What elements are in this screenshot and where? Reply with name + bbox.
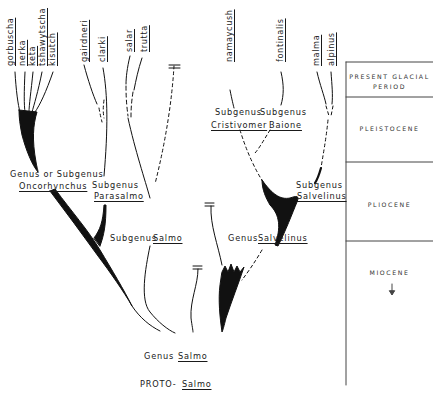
cristivomer-rank: Subgenus	[215, 108, 262, 116]
salvelinus-genus-name: Salvelinus	[258, 234, 308, 242]
species-nerka: nerka	[18, 40, 26, 66]
period-miocene: MIOCENE	[346, 268, 433, 278]
species-malma: malma	[312, 35, 320, 66]
cristivomer-name: Cristivomer	[211, 121, 267, 129]
species-kisutch: kisutch	[48, 32, 56, 66]
species-salar: salar	[125, 29, 133, 52]
parasalmo-rank: Subgenus	[92, 181, 139, 189]
salmo-genus-name: Salmo	[178, 352, 207, 360]
species-clarki: clarki	[98, 36, 106, 62]
parasalmo-name: Parasalmo	[94, 192, 144, 200]
period-present: PRESENT GLACIAL PERIOD	[346, 72, 433, 92]
extinct-branch	[191, 266, 202, 332]
oncorhynchus-name: Oncorhynchus	[19, 182, 87, 190]
species-alpinus: alpinus	[327, 32, 335, 66]
proto-name: Salmo	[182, 380, 211, 388]
baione-rank: Subgenus	[260, 108, 307, 116]
tree-branches	[0, 0, 433, 397]
period-present-line1: PRESENT GLACIAL	[346, 72, 433, 82]
species-fontinalis: fontinalis	[276, 18, 284, 62]
salmo-trunk	[50, 189, 160, 331]
salmo-subgenus-name: Salmo	[153, 234, 182, 242]
salvelinus-subgenus-name: Salvelinus	[297, 192, 347, 200]
species-keta: keta	[28, 46, 36, 66]
oncorhynchus-rank: Genus or Subgenus	[10, 170, 104, 178]
parasalmo-branches	[84, 65, 107, 176]
species-gairdneri: gairdneri	[80, 20, 88, 62]
salvelinus-genus-rank: Genus	[228, 234, 258, 242]
salmo-subgenus-rank: Subgenus	[110, 234, 157, 242]
species-gorbuscha: gorbuscha	[6, 18, 14, 66]
time-scale	[346, 62, 433, 385]
salmo-genus-rank: Genus	[144, 352, 174, 360]
salvelinus-subgenus-rank: Subgenus	[296, 181, 343, 189]
period-pleistocene: PLEISTOCENE	[346, 124, 433, 134]
period-pliocene: PLIOCENE	[346, 200, 433, 210]
period-present-line2: PERIOD	[346, 82, 433, 92]
phylogeny-diagram: gorbuscha nerka keta tshawytscha kisutch…	[0, 0, 433, 397]
species-tshawytscha: tshawytscha	[38, 8, 46, 66]
baione-name: Baione	[269, 121, 302, 129]
proto-prefix: PROTO-	[140, 380, 177, 388]
species-namaycush: namaycush	[225, 9, 233, 62]
species-trutta: trutta	[140, 25, 148, 52]
oncorhynchus-clade	[15, 72, 53, 172]
